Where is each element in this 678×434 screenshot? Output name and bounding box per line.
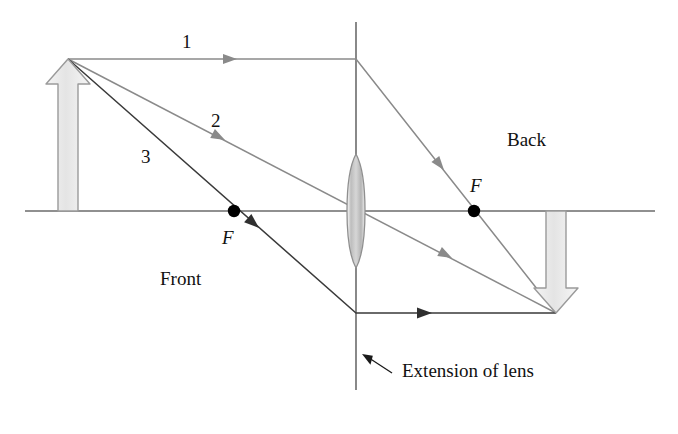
ray-3-arrowhead-refracted (417, 308, 432, 319)
image-arrow (534, 211, 578, 313)
focal-point-front-dot (228, 205, 240, 217)
front-side-label: Front (160, 269, 201, 288)
focal-point-back-dot (468, 205, 480, 217)
ray-2-arrowhead-refracted (437, 247, 454, 262)
ray-3-label: 3 (141, 147, 151, 166)
ray-1-label: 1 (182, 32, 192, 51)
focal-point-back-label: F (470, 176, 482, 195)
focal-point-front-label: F (222, 228, 234, 247)
ray-2-label: 2 (211, 111, 221, 130)
object-arrow (46, 59, 90, 211)
ray-1-arrowhead-incident (223, 54, 237, 64)
figure-canvas: 1 2 3 F F Front Back Extension of lens (0, 0, 678, 434)
ray-2-arrowhead-incident (210, 129, 227, 144)
converging-lens (347, 154, 365, 268)
back-side-label: Back (507, 130, 546, 149)
ray-diagram-svg (0, 0, 678, 434)
extension-of-lens-label: Extension of lens (402, 361, 534, 380)
extension-pointer-arrow (360, 350, 392, 373)
